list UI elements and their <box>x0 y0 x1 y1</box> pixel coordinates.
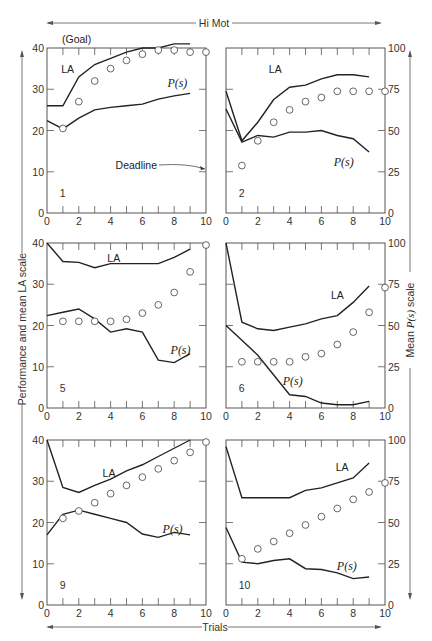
figure: Hi Mot Trials Performance and mean LA sc… <box>0 0 432 641</box>
performance-point <box>270 358 277 365</box>
performance-point <box>239 555 246 562</box>
x-tick-label: 6 <box>139 410 145 422</box>
performance-point <box>60 125 67 132</box>
performance-point <box>60 515 67 522</box>
y-tick-label: 20 <box>32 517 44 529</box>
x-tick-label: 2 <box>76 607 82 619</box>
x-tick-label: 6 <box>318 215 324 227</box>
performance-point <box>123 316 130 323</box>
x-tick-label: 8 <box>350 607 356 619</box>
x-tick-label: 2 <box>255 215 261 227</box>
panel-number: 2 <box>239 187 245 199</box>
ps-label: P(s) <box>333 155 354 169</box>
y-tick-label: 25 <box>388 361 400 373</box>
performance-point <box>203 49 210 56</box>
performance-point <box>171 47 178 54</box>
ps-label: P(s) <box>282 374 303 388</box>
y-tick-label: 30 <box>32 278 44 290</box>
performance-point <box>171 289 178 296</box>
performance-point <box>366 489 373 496</box>
arrow-head-icon <box>200 166 205 170</box>
performance-point <box>123 57 130 64</box>
y-tick-label: 20 <box>32 125 44 137</box>
x-tick-label: 8 <box>350 215 356 227</box>
ps-line <box>226 109 369 152</box>
panel-number: 9 <box>60 579 66 591</box>
performance-point <box>107 318 114 325</box>
performance-point <box>254 546 261 553</box>
performance-point <box>302 353 309 360</box>
performance-point <box>286 106 293 113</box>
performance-point <box>155 301 162 308</box>
goal-label: (Goal) <box>62 33 91 45</box>
la-label: LA <box>331 289 344 301</box>
x-tick-label: 10 <box>379 410 391 422</box>
x-tick-label: 2 <box>255 410 261 422</box>
footer-label: Trials <box>202 621 227 633</box>
y-tick-label: 40 <box>32 434 44 446</box>
panel-10: 0255075100024681010LAP(s) <box>223 434 406 619</box>
x-tick-label: 2 <box>76 410 82 422</box>
x-tick-label: 4 <box>108 215 114 227</box>
performance-point <box>382 88 389 95</box>
x-tick-label: 0 <box>44 410 50 422</box>
performance-point <box>187 449 194 456</box>
right-axis-label-group: Mean P(s) scale <box>404 50 417 600</box>
x-tick-label: 6 <box>139 607 145 619</box>
performance-point <box>187 49 194 56</box>
performance-point <box>302 98 309 105</box>
performance-point <box>350 88 357 95</box>
y-tick-label: 40 <box>32 42 44 54</box>
x-tick-label: 8 <box>171 607 177 619</box>
header-arrow: Hi Mot <box>46 17 382 29</box>
performance-point <box>60 318 67 325</box>
x-tick-label: 4 <box>287 607 293 619</box>
y-tick-label: 75 <box>388 475 400 487</box>
y-tick-label: 10 <box>32 166 44 178</box>
x-tick-label: 10 <box>379 215 391 227</box>
la-line <box>226 75 369 141</box>
performance-point <box>334 505 341 512</box>
panel-2: 025507510002468102LAP(s) <box>223 42 406 227</box>
arrow-left-icon <box>46 625 53 629</box>
y-tick-label: 100 <box>388 42 406 54</box>
x-tick-label: 2 <box>76 215 82 227</box>
performance-point <box>382 480 389 487</box>
deadline-arrow <box>159 165 205 170</box>
y-tick-label: 25 <box>388 558 400 570</box>
y-tick-label: 100 <box>388 237 406 249</box>
performance-point <box>286 530 293 537</box>
y-tick-label: 25 <box>388 166 400 178</box>
performance-point <box>350 329 357 336</box>
performance-point <box>270 538 277 545</box>
left-axis-label-group: Performance and mean LA scale <box>16 50 28 600</box>
la-label: LA <box>103 467 116 479</box>
performance-point <box>318 513 325 520</box>
performance-point <box>155 47 162 54</box>
performance-point <box>203 439 210 446</box>
la-line <box>226 243 369 330</box>
arrow-right-icon <box>375 21 382 25</box>
y-tick-label: 10 <box>32 558 44 570</box>
y-tick-label: 10 <box>32 361 44 373</box>
performance-point <box>334 88 341 95</box>
arrow-up-icon <box>20 50 24 57</box>
performance-point <box>107 65 114 72</box>
x-tick-label: 10 <box>200 215 212 227</box>
performance-point <box>171 457 178 464</box>
performance-point <box>366 309 373 316</box>
x-tick-label: 10 <box>200 607 212 619</box>
panel-number: 10 <box>239 579 251 591</box>
x-tick-label: 4 <box>108 607 114 619</box>
y-tick-label: 75 <box>388 278 400 290</box>
performance-point <box>318 350 325 357</box>
performance-point <box>334 341 341 348</box>
ps-label: P(s) <box>166 76 187 90</box>
x-tick-label: 4 <box>287 410 293 422</box>
x-tick-label: 0 <box>223 410 229 422</box>
x-tick-label: 4 <box>287 215 293 227</box>
x-tick-label: 0 <box>44 607 50 619</box>
panel-number: 6 <box>239 382 245 394</box>
performance-point <box>91 499 98 506</box>
panel-number: 1 <box>60 187 66 199</box>
